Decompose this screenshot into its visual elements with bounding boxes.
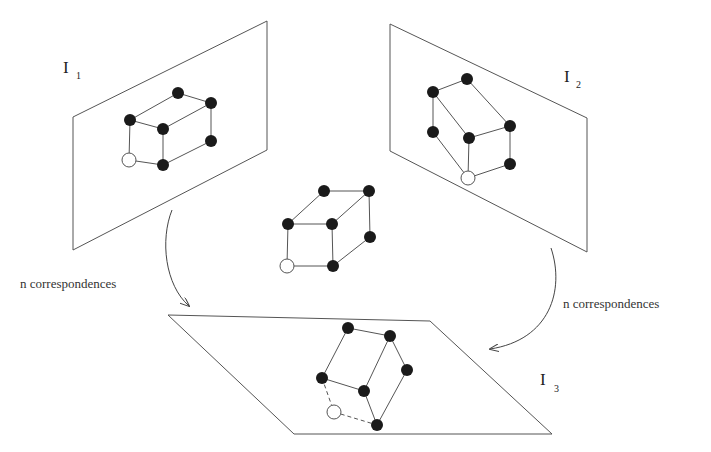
trifocal-diagram: I 1 I 2 [0,0,711,452]
arrow-i1-to-i3 [166,210,189,306]
cube-edges-i1 [129,93,211,165]
open-point-i2 [461,171,475,185]
plane-i1-label: I [63,58,69,77]
plane-i3-subscript: 3 [554,383,559,394]
right-correspondence-label: n correspondences [563,296,659,311]
left-correspondence-label: n correspondences [20,276,116,291]
arrow-i2-to-i3 [490,248,556,349]
plane-i2-label: I [564,67,570,86]
cube-edges-i2 [433,79,510,178]
image-plane-i2: I 2 [390,24,587,252]
world-cube [280,185,376,273]
image-plane-i3: I 3 [168,315,559,434]
image-plane-i1: I 1 [63,21,267,250]
cube-points-i2 [427,73,516,170]
open-point-world [280,259,294,273]
plane-i1-subscript: 1 [76,70,81,81]
open-point-i3 [327,405,341,419]
plane-i2-subscript: 2 [576,79,581,90]
cube-points-i1 [124,87,217,171]
plane-i3-label: I [540,370,546,389]
open-point-i1 [122,153,136,167]
